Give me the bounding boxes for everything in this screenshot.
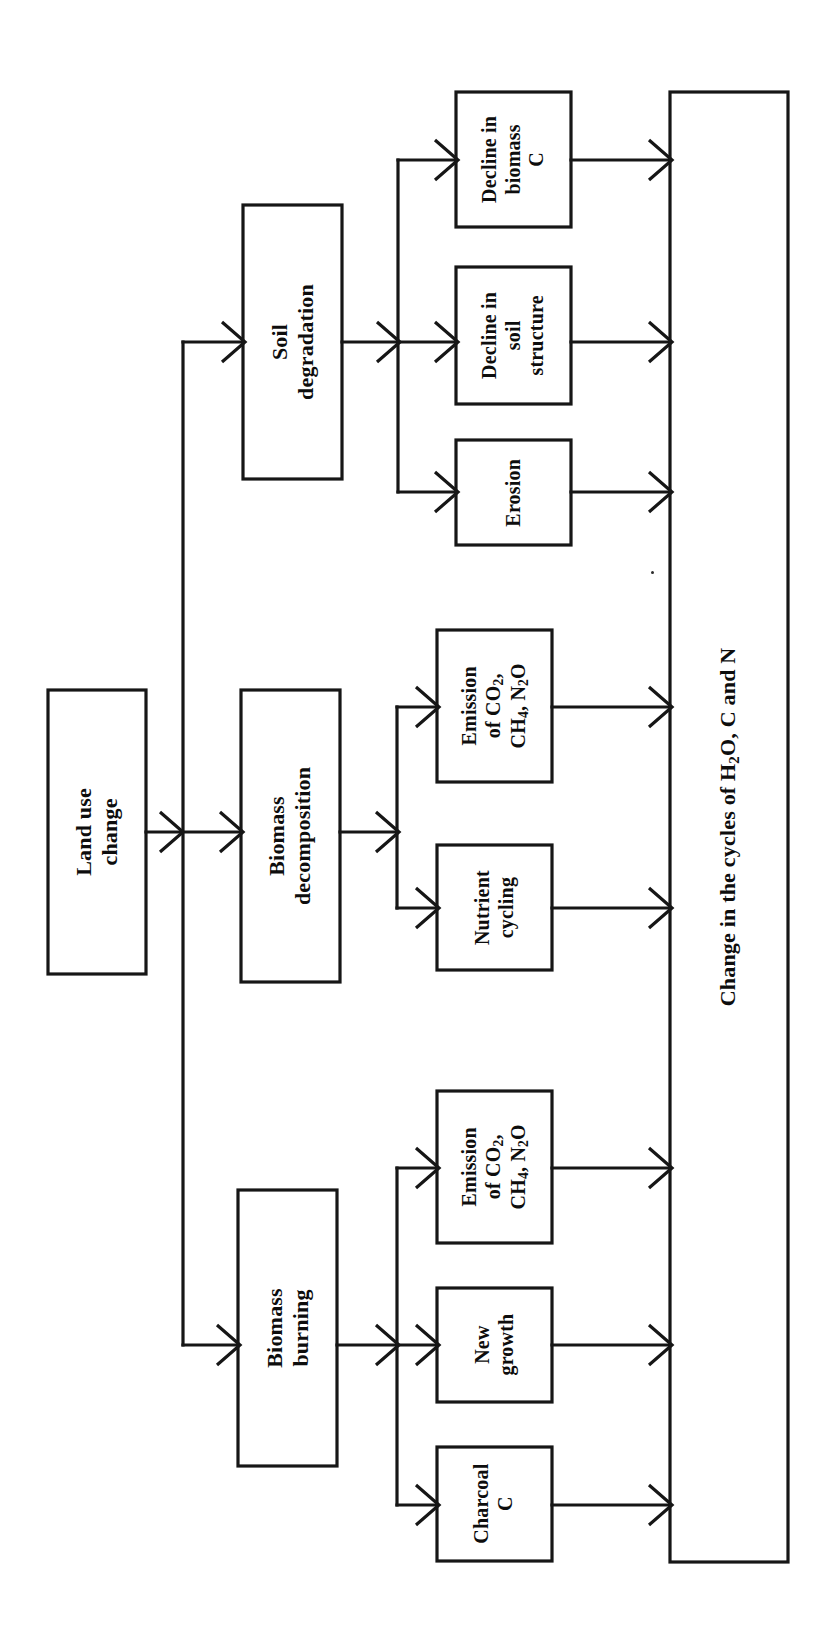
scan-speck <box>651 571 654 574</box>
node-land-use-change[interactable] <box>48 690 146 974</box>
node-biomass-burning[interactable] <box>238 1190 337 1466</box>
node-charcoal-c[interactable] <box>437 1447 552 1561</box>
node-emission-decomposition[interactable] <box>437 630 552 782</box>
node-erosion[interactable] <box>456 440 571 545</box>
flowchart-diagram: Land use change Soil degradation Biomass… <box>0 0 832 1640</box>
node-decline-in-soil-structure[interactable] <box>456 267 571 404</box>
node-decline-in-biomass-c[interactable] <box>456 92 571 227</box>
node-emission-burning[interactable] <box>437 1091 552 1243</box>
flowchart-canvas <box>0 0 832 1640</box>
node-nutrient-cycling[interactable] <box>437 845 552 970</box>
node-soil-degradation[interactable] <box>243 205 342 479</box>
node-change-in-cycles[interactable] <box>670 92 788 1562</box>
node-new-growth[interactable] <box>437 1288 552 1402</box>
node-biomass-decomposition[interactable] <box>241 690 340 982</box>
